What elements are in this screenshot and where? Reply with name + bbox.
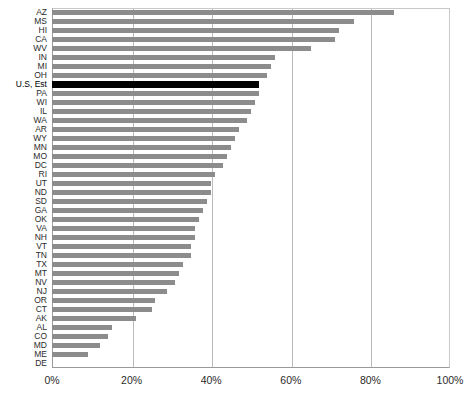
bar-NH <box>52 235 195 241</box>
bar-row <box>52 109 450 115</box>
bar-CO <box>52 334 108 340</box>
bars-layer <box>52 8 450 368</box>
bar-row <box>52 199 450 205</box>
bar-row <box>52 163 450 169</box>
bar-row <box>52 253 450 259</box>
x-axis-tick-labels: 0%20%40%60%80%100% <box>0 374 465 394</box>
bar-CA <box>52 37 335 43</box>
bar-SD <box>52 199 207 205</box>
bar-row <box>52 226 450 232</box>
category-labels: AZMSHICAWVINMIOHU.S, EstPAWIILWAARWYMNMO… <box>0 8 50 368</box>
bar-WY <box>52 136 235 142</box>
bar-row <box>52 361 450 367</box>
bar-row <box>52 154 450 160</box>
bar-TX <box>52 262 183 268</box>
bar-WA <box>52 118 247 124</box>
bar-IN <box>52 55 275 61</box>
bar-row <box>52 262 450 268</box>
bar-row <box>52 307 450 313</box>
x-tick-100pct: 100% <box>437 374 464 386</box>
bar-row <box>52 127 450 133</box>
bar-VA <box>52 226 195 232</box>
bar-AK <box>52 316 136 322</box>
category-label-DE: DE <box>35 359 47 368</box>
bar-DC <box>52 163 223 169</box>
bar-row <box>52 64 450 70</box>
bar-row <box>52 289 450 295</box>
bar-GA <box>52 208 203 214</box>
bar-row <box>52 235 450 241</box>
bar-ND <box>52 190 211 196</box>
bar-row <box>52 352 450 358</box>
bar-row <box>52 217 450 223</box>
bar-MN <box>52 145 231 151</box>
bar-MO <box>52 154 227 160</box>
bar-row <box>52 208 450 214</box>
bar-row <box>52 136 450 142</box>
bar-row <box>52 19 450 25</box>
bar-row <box>52 91 450 97</box>
bar-AZ <box>52 10 394 16</box>
bar-row <box>52 244 450 250</box>
bar-row <box>52 298 450 304</box>
x-tick-40pct: 40% <box>201 374 222 386</box>
bar-row <box>52 37 450 43</box>
bar-AL <box>52 325 112 331</box>
bar-VT <box>52 244 191 250</box>
bar-WV <box>52 46 311 52</box>
x-tick-0pct: 0% <box>44 374 59 386</box>
bar-CT <box>52 307 152 313</box>
bar-row <box>52 181 450 187</box>
bar-PA <box>52 91 259 97</box>
bar-row <box>52 334 450 340</box>
bar-row <box>52 100 450 106</box>
bar-NV <box>52 280 175 286</box>
bar-ME <box>52 352 88 358</box>
bar-row <box>52 280 450 286</box>
bar-row <box>52 46 450 52</box>
bar-row <box>52 118 450 124</box>
horizontal-bar-chart: AZMSHICAWVINMIOHU.S, EstPAWIILWAARWYMNMO… <box>0 0 465 416</box>
bar-OH <box>52 73 267 79</box>
bar-AR <box>52 127 239 133</box>
bar-row <box>52 271 450 277</box>
bar-NJ <box>52 289 167 295</box>
bar-row <box>52 145 450 151</box>
bar-WI <box>52 100 255 106</box>
bar-TN <box>52 253 191 259</box>
bar-USEst <box>52 81 259 88</box>
x-tick-20pct: 20% <box>121 374 142 386</box>
bar-RI <box>52 172 215 178</box>
bar-IL <box>52 109 251 115</box>
bar-row <box>52 10 450 16</box>
bar-row <box>52 28 450 34</box>
x-tick-80pct: 80% <box>360 374 381 386</box>
bar-HI <box>52 28 339 34</box>
bar-row <box>52 190 450 196</box>
bar-row <box>52 73 450 79</box>
bar-MT <box>52 271 179 277</box>
bar-MI <box>52 64 271 70</box>
bar-row <box>52 325 450 331</box>
bar-row <box>52 82 450 89</box>
bar-row <box>52 172 450 178</box>
bar-MD <box>52 343 100 349</box>
bar-UT <box>52 181 211 187</box>
x-tick-60pct: 60% <box>280 374 301 386</box>
bar-row <box>52 55 450 61</box>
bar-OK <box>52 217 199 223</box>
bar-row <box>52 343 450 349</box>
bar-MS <box>52 19 354 25</box>
bar-OR <box>52 298 155 304</box>
bar-row <box>52 316 450 322</box>
